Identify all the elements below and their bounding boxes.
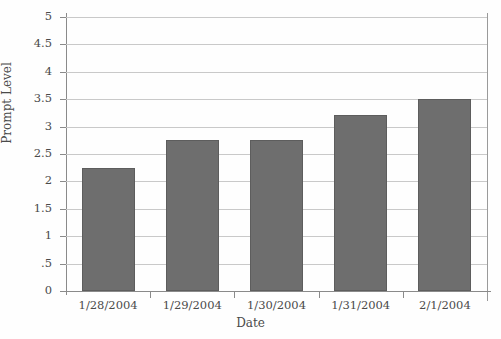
y-tick-label: 2.5 bbox=[8, 148, 52, 160]
x-tick-mark bbox=[150, 292, 151, 298]
y-tick-mark bbox=[60, 44, 66, 45]
bar-chart: 54.543.532.521.51.50 1/28/20041/29/20041… bbox=[0, 0, 501, 339]
x-tick-label: 1/30/2004 bbox=[234, 300, 318, 312]
y-tick-mark bbox=[60, 127, 66, 128]
y-tick-label: 5 bbox=[8, 11, 52, 23]
y-tick-mark bbox=[60, 17, 66, 18]
y-tick-mark bbox=[60, 264, 66, 265]
bar bbox=[418, 99, 471, 291]
y-tick-mark bbox=[60, 99, 66, 100]
bar bbox=[334, 115, 387, 291]
bar bbox=[250, 140, 303, 291]
x-tick-label: 1/28/2004 bbox=[66, 300, 150, 312]
plot-area bbox=[66, 17, 487, 291]
x-tick-label: 1/29/2004 bbox=[150, 300, 234, 312]
gridline bbox=[66, 17, 487, 18]
x-tick-mark bbox=[319, 292, 320, 298]
y-tick-label: 4 bbox=[8, 66, 52, 78]
y-tick-label: 1 bbox=[8, 230, 52, 242]
x-tick-mark bbox=[234, 292, 235, 298]
y-tick-mark bbox=[60, 291, 66, 292]
gridline bbox=[66, 72, 487, 73]
y-tick-mark bbox=[60, 181, 66, 182]
gridline bbox=[66, 44, 487, 45]
y-tick-label: 2 bbox=[8, 175, 52, 187]
y-tick-mark bbox=[60, 209, 66, 210]
x-axis-title: Date bbox=[0, 316, 501, 330]
y-tick-mark bbox=[60, 72, 66, 73]
bar bbox=[82, 168, 135, 291]
y-tick-label: 3 bbox=[8, 121, 52, 133]
x-axis-line bbox=[62, 291, 491, 292]
y-axis-title: Prompt Level bbox=[0, 62, 14, 144]
y-tick-mark bbox=[60, 154, 66, 155]
y-tick-label: 1.5 bbox=[8, 203, 52, 215]
y-tick-label: .5 bbox=[8, 258, 52, 270]
x-tick-label: 1/31/2004 bbox=[319, 300, 403, 312]
plot-right-border bbox=[487, 13, 488, 301]
y-tick-label: 0 bbox=[8, 285, 52, 297]
x-tick-label: 2/1/2004 bbox=[403, 300, 487, 312]
x-tick-mark bbox=[403, 292, 404, 298]
bar bbox=[166, 140, 219, 291]
y-tick-label: 3.5 bbox=[8, 93, 52, 105]
y-tick-mark bbox=[60, 236, 66, 237]
y-tick-label: 4.5 bbox=[8, 38, 52, 50]
